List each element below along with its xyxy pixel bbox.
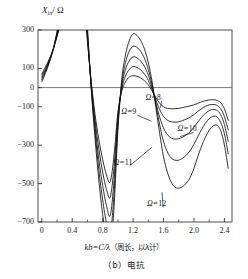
series-label: Ω=8: [146, 93, 161, 102]
y-tick-label: 0: [0, 83, 34, 92]
y-tick-label: −300: [0, 140, 34, 149]
y-axis-unit: / Ω: [52, 5, 63, 15]
x-tick-label: 0.4: [58, 226, 86, 235]
x-tick-label: 2.4: [210, 226, 238, 235]
x-tick-label: 0: [28, 226, 56, 235]
plot-frame: [38, 30, 232, 222]
figure-caption: （b）电抗: [0, 258, 248, 270]
x-tick-label: 2.0: [180, 226, 208, 235]
x-axis-title-math: kb=C/λ: [85, 242, 110, 252]
x-axis-title-cn: （周长，以λ计）: [110, 243, 163, 252]
y-tick-label: 300: [0, 25, 34, 34]
figure-reactance-chart: Xin/ Ω 3001000−100−300−500−700 00.40.81.…: [0, 0, 248, 279]
y-axis-title: Xin/ Ω: [42, 5, 64, 16]
x-axis-title: kb=C/λ（周长，以λ计）: [0, 241, 248, 252]
series-label: Ω=10: [177, 124, 196, 133]
y-tick-label: −500: [0, 179, 34, 188]
plot-canvas: [0, 0, 248, 279]
series-label: Ω=12: [147, 199, 166, 208]
y-tick-label: 100: [0, 63, 34, 72]
series-label: Ω=11: [114, 158, 133, 167]
series-label: Ω=9: [121, 107, 136, 116]
x-tick-label: 0.8: [89, 226, 117, 235]
x-tick-label: 1.2: [119, 226, 147, 235]
y-tick-label: −700: [0, 217, 34, 226]
y-tick-label: −100: [0, 102, 34, 111]
x-tick-label: 1.6: [150, 226, 178, 235]
